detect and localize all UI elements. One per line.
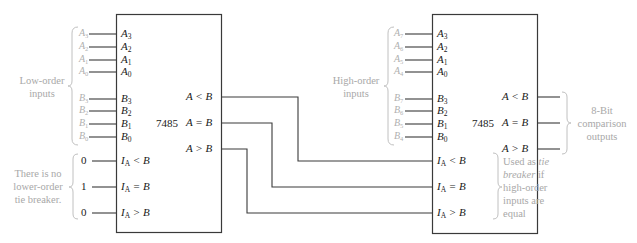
- high-pin-a2: A2: [437, 41, 447, 54]
- high-output-greater: A > B: [502, 143, 528, 154]
- high-output-leads: [537, 97, 560, 149]
- brace-outputs: [562, 92, 571, 154]
- low-output-equal: A = B: [186, 117, 212, 128]
- no-tie-breaker-label: There is nolower-ordertie breaker.: [8, 167, 68, 206]
- low-ext-input-2: A1: [79, 54, 88, 66]
- high-pin-b2: B2: [437, 105, 447, 118]
- tie-breaker-note: Used as tie breaker if high-order inputs…: [503, 155, 561, 220]
- high-ext-input-7: B4: [394, 131, 403, 143]
- high-ext-input-1: A6: [394, 41, 403, 53]
- high-pin-a0: A0: [437, 66, 447, 79]
- low-ext-input-0: A3: [79, 28, 88, 40]
- brace-high-cascade: [493, 153, 502, 219]
- high-ext-input-2: A5: [394, 54, 403, 66]
- brace-low-cascade: [69, 154, 78, 219]
- low-ext-input-3: A0: [79, 66, 88, 78]
- low-cascade-value-less: 0: [81, 155, 87, 166]
- high-pin-ia-equal: IA = B: [437, 181, 466, 194]
- low-pin-a0: A0: [121, 66, 131, 79]
- low-order-inputs-label: Low-orderinputs: [14, 74, 70, 100]
- low-ext-input-7: B0: [79, 131, 88, 143]
- low-pin-a3: A3: [121, 28, 131, 41]
- high-order-inputs-label: High-orderinputs: [328, 74, 384, 100]
- high-ext-input-6: B5: [394, 118, 403, 130]
- high-ext-input-0: A7: [394, 28, 403, 40]
- low-pin-b0: B0: [121, 131, 131, 144]
- low-pin-a2: A2: [121, 41, 131, 54]
- low-input-leads: [89, 34, 116, 213]
- low-pin-ia-greater: IA > B: [121, 207, 150, 220]
- high-pin-b0: B0: [437, 131, 447, 144]
- low-ext-input-6: B1: [79, 118, 88, 130]
- low-chip-name: 7485: [156, 118, 178, 129]
- high-chip-name: 7485: [472, 118, 494, 129]
- high-ext-input-5: B6: [394, 105, 403, 117]
- high-pin-b1: B1: [437, 118, 447, 131]
- low-ext-input-5: B2: [79, 105, 88, 117]
- low-cascade-value-greater: 0: [81, 207, 87, 218]
- high-pin-ia-less: IA < B: [437, 155, 466, 168]
- comparison-outputs-label: 8-Bitcomparisonoutputs: [572, 104, 632, 143]
- low-ext-input-1: A2: [79, 41, 88, 53]
- low-pin-b1: B1: [121, 118, 131, 131]
- high-output-equal: A = B: [502, 117, 528, 128]
- high-input-leads: [405, 34, 432, 137]
- high-pin-a3: A3: [437, 28, 447, 41]
- brace-high-inputs: [384, 27, 394, 145]
- low-cascade-value-equal: 1: [81, 181, 87, 192]
- low-pin-b2: B2: [121, 105, 131, 118]
- low-pin-ia-equal: IA = B: [121, 181, 150, 194]
- low-output-less: A < B: [186, 91, 212, 102]
- low-pin-ia-less: IA < B: [121, 155, 150, 168]
- wire-a-greater-b: [221, 149, 432, 213]
- low-output-greater: A > B: [186, 143, 212, 154]
- high-output-less: A < B: [502, 91, 528, 102]
- high-ext-input-3: A4: [394, 66, 403, 78]
- low-ext-input-4: B3: [79, 93, 88, 105]
- high-pin-ia-greater: IA > B: [437, 207, 466, 220]
- high-ext-input-4: B7: [394, 93, 403, 105]
